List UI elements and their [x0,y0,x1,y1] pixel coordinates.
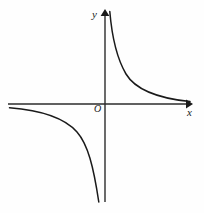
origin-label: O [94,104,101,114]
hyperbola-branch-quadrant-1 [110,12,190,102]
hyperbola-figure: y x O [0,0,204,213]
coordinate-plot [0,0,204,213]
x-axis-label: x [187,107,192,118]
y-axis-arrowhead [101,9,110,16]
y-axis-label: y [92,9,97,20]
hyperbola-branch-quadrant-3 [10,108,99,202]
